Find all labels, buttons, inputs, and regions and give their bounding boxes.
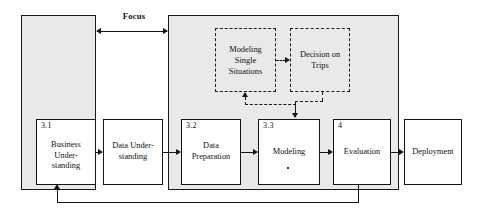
deployment-box: Deployment: [404, 119, 462, 185]
feedback-line-down-from-evaluation: [358, 185, 359, 202]
modeling-number: 3.3: [263, 121, 274, 131]
modeling-label: Modeling: [259, 147, 319, 158]
decision-on-trips-label: Decision on Trips: [291, 49, 349, 71]
data-understanding-box: Data Under- standing: [103, 119, 163, 185]
dashed-connector-to-modsingle-vertical: [245, 97, 246, 105]
arrowhead-to-evaluation: [328, 149, 333, 155]
focus-label: Focus: [106, 11, 162, 21]
dashed-connector-decision-horizontal-segment: [295, 101, 323, 102]
modeling-box: 3.3 Modeling: [258, 119, 320, 185]
focus-arrowhead-right: [163, 28, 168, 34]
dashed-connector-decision-to-modeling-vertical: [295, 101, 296, 113]
decision-on-trips-box: Decision on Trips: [290, 28, 350, 92]
arrowhead-to-dataund: [98, 149, 103, 155]
dashed-connector-modeling-horizontal-segment: [245, 104, 296, 105]
arrowhead-to-deployment: [399, 149, 404, 155]
evaluation-box: 4 Evaluation: [333, 119, 391, 185]
data-understanding-label: Data Under- standing: [104, 141, 162, 162]
feedback-line-horizontal: [57, 202, 359, 203]
dashed-arrowhead-to-modsingle: [242, 92, 248, 97]
business-understanding-box: 3.1 Business Under- standing: [36, 119, 96, 185]
dashed-arrowhead-to-modeling: [292, 113, 298, 118]
feedback-line-up-to-business: [57, 190, 58, 203]
deployment-label: Deployment: [405, 147, 461, 158]
data-preparation-number: 3.2: [186, 121, 197, 131]
arrowhead-to-modeling-flow: [253, 149, 258, 155]
dashed-connector-decision-down-segment: [322, 92, 323, 101]
focus-connector-line: [101, 31, 167, 32]
feedback-arrowhead-to-business: [54, 184, 60, 189]
business-understanding-label: Business Under- standing: [37, 140, 95, 172]
focus-arrowhead-left: [96, 28, 101, 34]
modeling-single-situations-label: Modeling Single Situations: [216, 44, 275, 77]
dashed-arrowhead-to-decision: [285, 57, 290, 63]
modeling-single-situations-box: Modeling Single Situations: [215, 28, 276, 92]
diagram-canvas: Focus Modeling Single Situations Decisio…: [0, 0, 478, 221]
evaluation-label: Evaluation: [334, 147, 390, 158]
data-preparation-box: 3.2 Data Preparation: [181, 119, 241, 185]
scan-speck: [287, 167, 289, 169]
evaluation-number: 4: [338, 121, 342, 131]
business-understanding-number: 3.1: [41, 121, 52, 131]
data-preparation-label: Data Preparation: [182, 141, 240, 162]
arrowhead-to-dataprep: [176, 149, 181, 155]
